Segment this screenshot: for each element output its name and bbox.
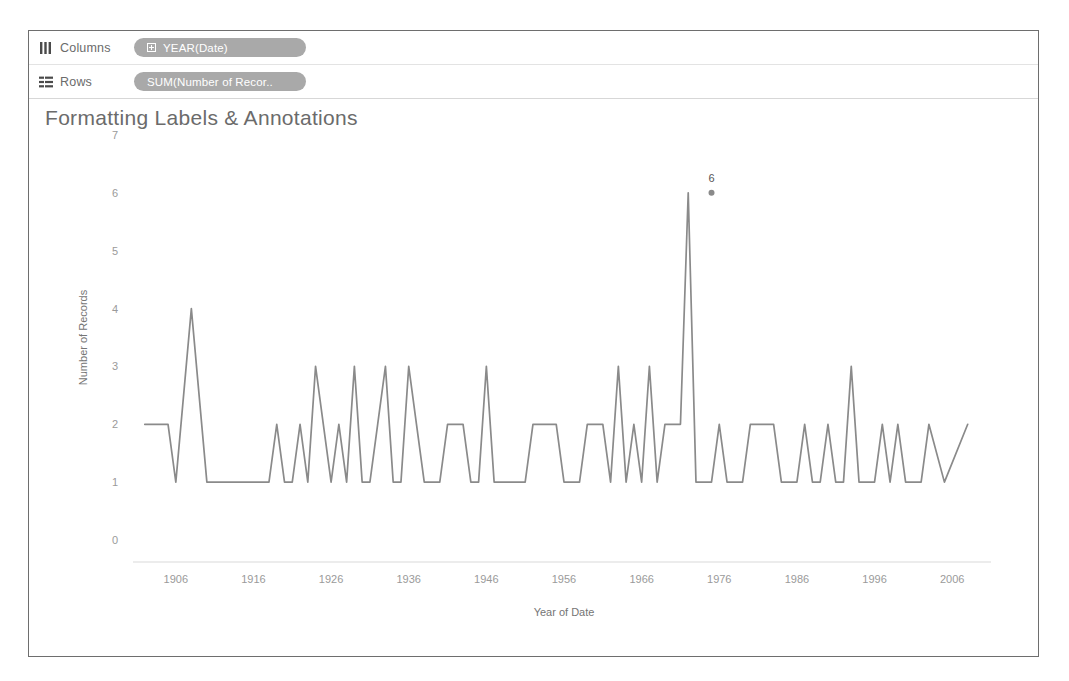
annotation-label[interactable]: 6 bbox=[708, 172, 714, 184]
pill-sum-number-of-records[interactable]: SUM(Number of Recor.. bbox=[134, 72, 306, 91]
rows-icon bbox=[38, 75, 54, 89]
y-axis-tick-label: 4 bbox=[112, 303, 118, 315]
rows-shelf-label: Rows bbox=[60, 75, 134, 89]
rows-shelf[interactable]: Rows SUM(Number of Recor.. bbox=[29, 65, 1038, 99]
y-axis-tick-label: 1 bbox=[112, 476, 118, 488]
y-axis-tick-label: 3 bbox=[112, 360, 118, 372]
x-axis-tick-label: 1996 bbox=[862, 573, 886, 585]
pill-sum-number-of-records-label: SUM(Number of Recor.. bbox=[147, 76, 273, 88]
y-axis-title: Number of Records bbox=[77, 289, 89, 385]
y-axis-tick-label: 6 bbox=[112, 187, 118, 199]
columns-shelf[interactable]: Columns YEAR(Date) bbox=[29, 31, 1038, 65]
annotation-marker[interactable] bbox=[709, 190, 715, 196]
x-axis-tick-label: 1976 bbox=[707, 573, 731, 585]
plus-box-icon[interactable] bbox=[147, 43, 156, 52]
pill-year-date[interactable]: YEAR(Date) bbox=[134, 38, 306, 57]
y-axis-tick-label: 7 bbox=[112, 129, 118, 141]
x-axis-tick-label: 1956 bbox=[552, 573, 576, 585]
x-axis-tick-label: 1986 bbox=[785, 573, 809, 585]
columns-shelf-label: Columns bbox=[60, 41, 134, 55]
x-axis-tick-label: 1926 bbox=[319, 573, 343, 585]
series-line[interactable] bbox=[145, 193, 968, 482]
x-axis-tick-label: 1916 bbox=[241, 573, 265, 585]
line-chart[interactable]: 01234567Number of Records190619161926193… bbox=[29, 100, 1038, 658]
view-area: Formatting Labels & Annotations 01234567… bbox=[29, 100, 1038, 656]
y-axis-tick-label: 2 bbox=[112, 418, 118, 430]
y-axis-tick-label: 5 bbox=[112, 245, 118, 257]
pill-year-date-label: YEAR(Date) bbox=[163, 42, 228, 54]
x-axis-tick-label: 1946 bbox=[474, 573, 498, 585]
x-axis-tick-label: 1966 bbox=[629, 573, 653, 585]
x-axis-tick-label: 2006 bbox=[940, 573, 964, 585]
columns-icon bbox=[38, 41, 54, 55]
x-axis-tick-label: 1936 bbox=[396, 573, 420, 585]
x-axis-tick-label: 1906 bbox=[164, 573, 188, 585]
worksheet-frame: Columns YEAR(Date) Rows SUM(Number of Re… bbox=[28, 30, 1039, 657]
y-axis-tick-label: 0 bbox=[112, 534, 118, 546]
x-axis-title: Year of Date bbox=[534, 606, 595, 618]
